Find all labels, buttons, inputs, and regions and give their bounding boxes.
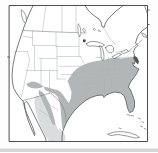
range-map-canvas bbox=[0, 0, 158, 152]
isolated-record-marker bbox=[83, 40, 86, 43]
range-map-figure bbox=[0, 0, 158, 152]
bottom-edge-strip bbox=[0, 149, 158, 153]
